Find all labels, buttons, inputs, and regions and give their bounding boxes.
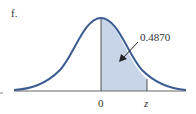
tick-label-zero: 0 [98, 97, 104, 109]
shaded-area [101, 18, 147, 91]
normal-curve-figure: f. 0.4870 0 z [0, 0, 196, 114]
tick-label-z: z [143, 97, 149, 109]
part-label: f. [11, 7, 18, 19]
area-label: 0.4870 [140, 31, 171, 43]
normal-curve [14, 18, 186, 90]
